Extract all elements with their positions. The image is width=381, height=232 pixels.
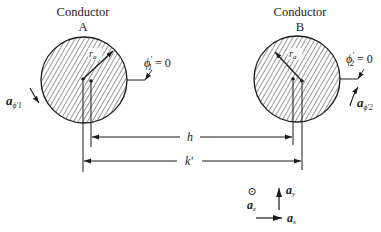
conductor-a: Conductor A ra ϕ′1 = 0 aϕ′1	[6, 5, 171, 123]
conductor-a-title: Conductor	[57, 5, 111, 19]
y-axis-label: ay	[286, 183, 296, 198]
conductor-a-phi-label: ϕ′1 = 0	[144, 55, 171, 72]
conductor-b-phi-pointer	[358, 69, 364, 79]
coordinate-axes: ⊙ az ay ax	[247, 183, 297, 226]
z-axis-label: az	[247, 198, 256, 213]
conductor-a-letter: A	[78, 20, 87, 34]
conductor-b-phi-label: ϕ′2 = 0	[346, 51, 373, 68]
conductor-a-center-dot	[81, 77, 85, 81]
conductor-a-unit-vector-arrow	[30, 88, 39, 103]
x-axis-label: ax	[287, 211, 297, 226]
conductor-b-center-dot	[300, 79, 304, 83]
z-out-of-page-icon: ⊙	[247, 185, 256, 197]
conductor-b-letter: B	[296, 20, 304, 34]
conductor-b-unit-vector-label: aϕ′2	[357, 95, 373, 112]
conductor-b: Conductor B ra ϕ′2 = 0 aϕ′2	[254, 5, 373, 122]
conductor-b-offset-dot	[291, 77, 295, 81]
diagram-canvas: Conductor A ra ϕ′1 = 0 aϕ′1 Conductor B …	[0, 0, 381, 232]
conductor-a-unit-vector-label: aϕ′1	[6, 93, 22, 110]
dimension-k-label: k′	[185, 154, 193, 168]
conductor-a-offset-dot	[89, 79, 93, 83]
conductor-b-title: Conductor	[274, 5, 328, 19]
dimension-h-label: h	[187, 130, 193, 144]
